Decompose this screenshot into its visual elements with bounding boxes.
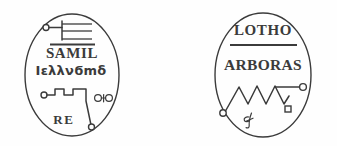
sigil-node-circle	[43, 25, 49, 31]
seal-name-lotho: LOTHO	[234, 22, 292, 38]
glyph-loop-right	[106, 95, 113, 102]
seal-script-line: Ιελλνϭmδ	[36, 63, 107, 78]
glyph-loop-left	[95, 95, 102, 102]
seal-samil: SAMIL Ιελλνϭmδ RE	[0, 0, 150, 146]
seal-lower-word-re: RE	[53, 112, 74, 127]
sigil-node-square	[285, 106, 291, 112]
seal-name-samil: SAMIL	[46, 45, 98, 61]
looped-knot-glyph	[95, 95, 113, 102]
sigil-node-bottom	[89, 124, 95, 130]
top-sigil-samil	[43, 21, 92, 40]
sigil-node-left	[41, 92, 47, 98]
sigil-node-right	[300, 84, 307, 91]
sigil-zigzag-path	[226, 86, 290, 111]
bottom-sigil-arboras	[220, 84, 307, 117]
cursive-g-glyph	[244, 113, 253, 128]
seal-name-arboras: ARBORAS	[224, 56, 302, 73]
sigil-plate: SAMIL Ιελλνϭmδ RE	[0, 0, 337, 146]
seal-arboras: LOTHO ARBORAS	[190, 0, 337, 146]
